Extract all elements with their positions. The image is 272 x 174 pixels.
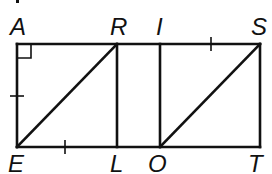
label-R: R [110, 13, 127, 40]
label-L: L [110, 150, 123, 174]
diagonal-OS [160, 44, 260, 147]
diagonal-ER [17, 44, 117, 147]
label-A: A [8, 13, 26, 40]
geometry-diagram: A R I S E L O T [0, 0, 272, 174]
label-I: I [156, 13, 163, 40]
label-E: E [8, 150, 25, 174]
label-O: O [148, 150, 167, 174]
right-angle-mark-A [17, 44, 31, 58]
cropped-mark [16, 0, 19, 3]
label-T: T [248, 150, 265, 174]
label-S: S [251, 13, 267, 40]
